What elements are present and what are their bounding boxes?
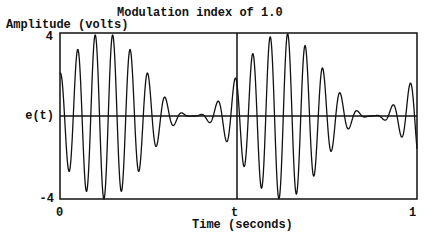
plot-area — [0, 0, 435, 239]
